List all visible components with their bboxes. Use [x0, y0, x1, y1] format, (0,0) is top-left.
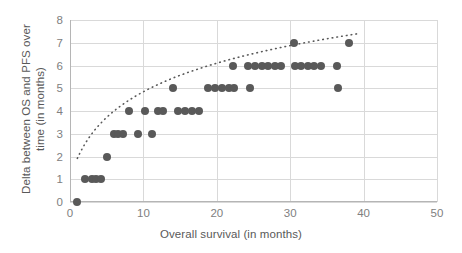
gridline-x-40 [364, 20, 365, 202]
x-tick-label-10: 10 [128, 207, 158, 219]
data-point [334, 84, 342, 92]
y-tick-label-7: 7 [39, 37, 63, 49]
data-point [103, 153, 111, 161]
data-point [246, 84, 254, 92]
x-tick-label-50: 50 [422, 207, 452, 219]
y-tick-label-2: 2 [39, 151, 63, 163]
data-point [159, 107, 167, 115]
data-point [169, 84, 177, 92]
x-tick-label-20: 20 [202, 207, 232, 219]
y-tick-label-6: 6 [39, 60, 63, 72]
x-tick-label-40: 40 [349, 207, 379, 219]
y-tick-label-4: 4 [39, 105, 63, 117]
data-point [97, 175, 105, 183]
gridline-y-7 [70, 43, 437, 44]
gridline-y-2 [70, 157, 437, 158]
data-point [317, 62, 325, 70]
x-tick-label-0: 0 [55, 207, 85, 219]
plot-area [70, 20, 437, 202]
gridline-x-30 [290, 20, 291, 202]
y-tick-label-5: 5 [39, 82, 63, 94]
x-tick-label-30: 30 [275, 207, 305, 219]
y-tick-label-3: 3 [39, 128, 63, 140]
gridline-y-1 [70, 179, 437, 180]
y-tick-label-8: 8 [39, 14, 63, 26]
data-point [125, 107, 133, 115]
y-axis-line [70, 20, 71, 202]
x-axis-title: Overall survival (in months) [0, 228, 462, 240]
y-tick-label-1: 1 [39, 173, 63, 185]
data-point [141, 107, 149, 115]
data-point [229, 62, 237, 70]
gridline-x-20 [217, 20, 218, 202]
data-point [148, 130, 156, 138]
gridline-y-8 [70, 20, 437, 21]
gridline-x-50 [437, 20, 438, 202]
data-point [119, 130, 127, 138]
data-point [195, 107, 203, 115]
x-axis-line [70, 201, 437, 202]
data-point [134, 130, 142, 138]
data-point [230, 84, 238, 92]
data-point [277, 62, 285, 70]
gridline-y-0 [70, 202, 437, 203]
data-point [290, 39, 298, 47]
scatter-chart: Delta between OS and PFS over time (in m… [0, 0, 462, 253]
data-point [73, 198, 81, 206]
data-point [333, 62, 341, 70]
data-point [345, 39, 353, 47]
